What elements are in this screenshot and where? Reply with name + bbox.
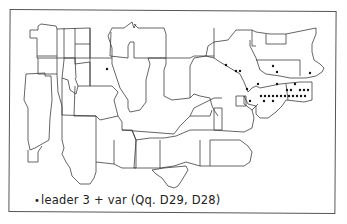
data-dot — [292, 95, 294, 97]
data-dot — [304, 95, 306, 97]
state-outline-column-a — [57, 74, 62, 115]
data-dot — [288, 95, 290, 97]
state-outline-mid-1 — [112, 58, 150, 112]
data-dot — [284, 95, 286, 97]
data-dot — [280, 95, 282, 97]
state-outline-east-3 — [190, 110, 212, 116]
data-dot — [239, 70, 241, 72]
map-legend: •leader 3 + var (Qq. D29, D28) — [34, 193, 220, 207]
state-outline-row-2 — [74, 86, 118, 120]
state-outline-south-4 — [200, 140, 252, 166]
state-outline-central-5 — [134, 140, 200, 168]
data-dot — [300, 95, 302, 97]
state-outline-northwest — [30, 24, 90, 58]
data-dot — [294, 83, 296, 85]
data-dot — [257, 83, 259, 85]
state-outline-row-3 — [90, 22, 136, 58]
state-outline-central-1 — [62, 115, 136, 168]
legend-label: leader 3 + var (Qq. D29, D28) — [41, 193, 220, 207]
state-outline-west-2 — [62, 28, 64, 140]
state-boundaries — [24, 22, 324, 188]
data-dot — [276, 83, 278, 85]
data-dot — [246, 88, 248, 90]
state-outline-new-england-row — [266, 34, 286, 44]
data-dot — [272, 95, 274, 97]
data-dot — [299, 89, 301, 91]
data-dot — [290, 89, 292, 91]
legend-dot-icon: • — [34, 195, 40, 206]
state-outline-pennsylvania — [214, 58, 312, 118]
state-outline-new-england-row-2 — [256, 60, 300, 76]
data-dot — [272, 100, 274, 102]
data-dot — [268, 95, 270, 97]
data-dot — [263, 100, 265, 102]
state-outline-central-3 — [122, 130, 212, 140]
data-dot — [276, 71, 278, 73]
state-outline-lakes — [110, 24, 166, 58]
state-outline-west-3 — [75, 28, 76, 78]
data-dot — [303, 89, 305, 91]
data-dot — [309, 72, 311, 74]
state-outline-west-1 — [38, 29, 57, 74]
state-outline-south-2 — [62, 140, 96, 184]
state-outline-ohio-west — [24, 73, 52, 150]
data-dot — [272, 65, 274, 67]
state-outline-column-c — [75, 62, 90, 86]
data-dot — [235, 70, 237, 72]
data-dot — [276, 95, 278, 97]
state-outline-nj-split — [286, 84, 288, 100]
data-dots — [106, 64, 311, 102]
state-outline-new-england-split — [252, 30, 256, 46]
data-dot — [260, 95, 262, 97]
state-outline-new-york — [206, 28, 324, 78]
data-dot — [286, 89, 288, 91]
data-dot — [264, 95, 266, 97]
state-outline-west-6 — [64, 58, 90, 64]
data-dot — [249, 100, 251, 102]
state-outline-florida — [152, 166, 188, 188]
state-outline-mid-3 — [166, 56, 214, 58]
data-dot — [225, 64, 227, 66]
state-outline-mid-2 — [148, 28, 214, 100]
state-outline-row-1 — [90, 28, 118, 116]
data-dot — [296, 95, 298, 97]
data-dot — [307, 89, 309, 91]
eastern-us-map — [0, 0, 347, 224]
data-dot — [106, 68, 108, 70]
